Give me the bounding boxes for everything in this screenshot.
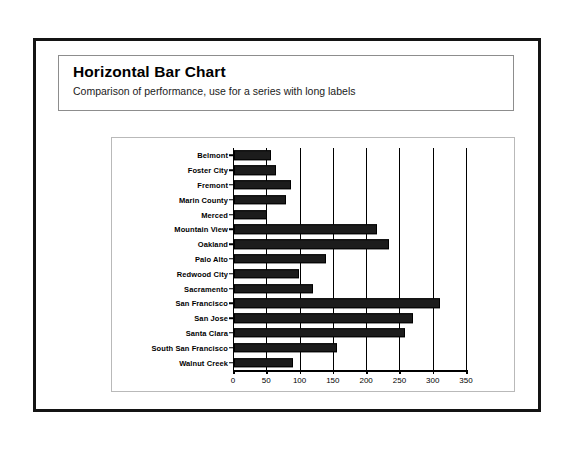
bar-row: Sacramento [112, 281, 514, 296]
x-tick-label: 0 [231, 376, 235, 385]
category-label: San Francisco [175, 299, 228, 308]
bar [234, 269, 300, 279]
category-label: South San Francisco [152, 343, 229, 352]
y-tick-mark [229, 273, 233, 275]
chart-panel: 050100150200250300350 BelmontFoster City… [111, 137, 515, 392]
category-label: San Jose [194, 314, 228, 323]
x-tick-label: 250 [393, 376, 406, 385]
x-tick-label: 150 [326, 376, 339, 385]
x-tick-mark [266, 370, 268, 374]
bar [234, 195, 287, 205]
category-label: Fremont [197, 180, 228, 189]
x-tick-mark [366, 370, 368, 374]
x-tick-label: 300 [426, 376, 439, 385]
category-label: Foster City [188, 166, 228, 175]
bar-row: Merced [112, 207, 514, 222]
category-label: Santa Clara [186, 328, 228, 337]
bar [234, 254, 327, 264]
x-tick-mark [466, 370, 468, 374]
bar-row: San Jose [112, 311, 514, 326]
x-tick-label: 50 [262, 376, 271, 385]
slide-frame: Horizontal Bar Chart Comparison of perfo… [33, 38, 541, 412]
bar [234, 343, 338, 353]
chart-subtitle: Comparison of performance, use for a ser… [73, 85, 501, 98]
x-tick-mark [333, 370, 335, 374]
x-tick-mark [399, 370, 401, 374]
y-tick-mark [229, 347, 233, 349]
category-label: Belmont [197, 151, 228, 160]
bar [234, 358, 294, 368]
bar-row: Belmont [112, 148, 514, 163]
y-tick-mark [229, 317, 233, 319]
bar-row: Redwood City [112, 266, 514, 281]
category-label: Merced [201, 210, 228, 219]
bar [234, 313, 414, 323]
bar [234, 239, 389, 249]
category-label: Palo Alto [195, 254, 228, 263]
bar-row: Oakland [112, 237, 514, 252]
category-label: Marin County [179, 195, 228, 204]
bar [234, 151, 272, 161]
bar [234, 210, 267, 220]
y-tick-mark [229, 199, 233, 201]
category-label: Oakland [198, 240, 228, 249]
y-tick-mark [229, 229, 233, 231]
x-tick-label: 350 [459, 376, 472, 385]
bar-row: Fremont [112, 178, 514, 193]
y-tick-mark [229, 303, 233, 305]
x-tick-label: 100 [293, 376, 306, 385]
bar [234, 328, 406, 338]
bar [234, 225, 377, 235]
category-label: Walnut Creek [179, 358, 228, 367]
y-tick-mark [229, 184, 233, 186]
bar-row: San Francisco [112, 296, 514, 311]
bar-row: Walnut Creek [112, 355, 514, 370]
x-tick-mark [300, 370, 302, 374]
page-title: Horizontal Bar Chart [73, 63, 501, 80]
bar-row: Mountain View [112, 222, 514, 237]
y-tick-mark [229, 214, 233, 216]
bar-row: South San Francisco [112, 340, 514, 355]
bar [234, 299, 440, 309]
y-tick-mark [229, 258, 233, 260]
y-tick-mark [229, 169, 233, 171]
bar-row: Marin County [112, 192, 514, 207]
y-tick-mark [229, 332, 233, 334]
y-tick-mark [229, 288, 233, 290]
bar-row: Palo Alto [112, 252, 514, 267]
y-tick-mark [229, 362, 233, 364]
bar-row: Santa Clara [112, 326, 514, 341]
category-label: Redwood City [177, 269, 228, 278]
y-tick-mark [229, 155, 233, 157]
x-tick-label: 200 [359, 376, 372, 385]
header-card: Horizontal Bar Chart Comparison of perfo… [58, 55, 514, 111]
bar [234, 165, 277, 175]
y-tick-mark [229, 243, 233, 245]
x-tick-mark [433, 370, 435, 374]
category-label: Sacramento [184, 284, 228, 293]
bar-row: Foster City [112, 163, 514, 178]
bar [234, 284, 313, 294]
bar [234, 180, 292, 190]
x-tick-mark [233, 370, 235, 374]
category-label: Mountain View [174, 225, 228, 234]
